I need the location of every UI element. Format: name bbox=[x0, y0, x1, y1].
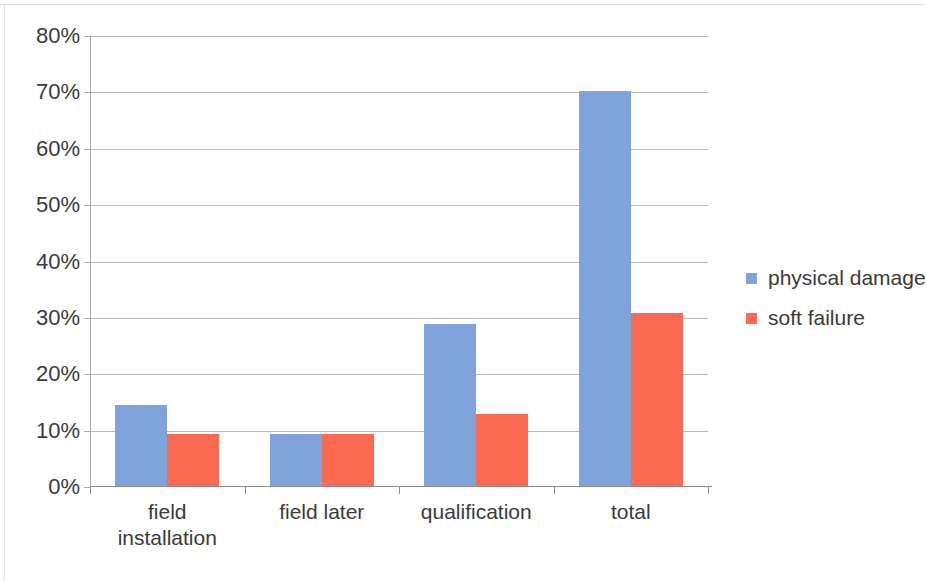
y-axis-tick bbox=[84, 205, 90, 206]
y-axis-tick bbox=[84, 149, 90, 150]
plot-area bbox=[90, 36, 712, 487]
y-axis-line bbox=[90, 36, 91, 488]
x-axis-line bbox=[90, 486, 712, 487]
legend-swatch-icon bbox=[746, 313, 757, 324]
bar-physical-damage-qualification bbox=[424, 324, 476, 486]
y-axis-tick-label: 0% bbox=[0, 476, 80, 498]
y-axis-tick-label: 20% bbox=[0, 363, 80, 385]
legend-item-physical-damage[interactable]: physical damage bbox=[746, 258, 924, 298]
y-axis-tick bbox=[84, 318, 90, 319]
bar-physical-damage-field-installation bbox=[115, 405, 167, 486]
y-axis-tick-label: 60% bbox=[0, 138, 80, 160]
category-label-field-installation: fieldinstallation bbox=[90, 499, 245, 551]
category-label-line: field later bbox=[245, 499, 400, 525]
x-axis-tick bbox=[90, 487, 91, 494]
y-axis-tick-label: 70% bbox=[0, 81, 80, 103]
category-label-line: field bbox=[90, 499, 245, 525]
chart-legend: physical damagesoft failure bbox=[746, 258, 924, 338]
legend-item-soft-failure[interactable]: soft failure bbox=[746, 298, 924, 338]
bar-soft-failure-qualification bbox=[476, 414, 528, 486]
y-axis-tick-label: 40% bbox=[0, 251, 80, 273]
legend-swatch-icon bbox=[746, 273, 757, 284]
scan-edge-top bbox=[0, 4, 924, 5]
y-axis-tick bbox=[84, 92, 90, 93]
category-label-line: qualification bbox=[399, 499, 554, 525]
y-axis-tick-label: 30% bbox=[0, 307, 80, 329]
x-axis-tick bbox=[399, 487, 400, 494]
y-axis-tick bbox=[84, 36, 90, 37]
bar-soft-failure-field-installation bbox=[167, 434, 219, 486]
category-label-field-later: field later bbox=[245, 499, 400, 525]
y-axis-tick-label: 50% bbox=[0, 194, 80, 216]
y-axis-tick-label: 10% bbox=[0, 420, 80, 442]
y-axis-tick bbox=[84, 431, 90, 432]
category-label-total: total bbox=[554, 499, 709, 525]
category-label-qualification: qualification bbox=[399, 499, 554, 525]
y-axis-tick-label: 80% bbox=[0, 25, 80, 47]
category-label-line: total bbox=[554, 499, 709, 525]
y-axis-tick bbox=[84, 262, 90, 263]
bar-physical-damage-field-later bbox=[270, 434, 322, 486]
bar-physical-damage-total bbox=[579, 91, 631, 486]
bar-soft-failure-field-later bbox=[322, 434, 374, 486]
x-axis-tick bbox=[708, 487, 709, 494]
bar-soft-failure-total bbox=[631, 313, 683, 486]
x-axis-tick bbox=[245, 487, 246, 494]
category-label-line: installation bbox=[90, 525, 245, 551]
x-axis-tick bbox=[554, 487, 555, 494]
legend-label: physical damage bbox=[768, 266, 926, 290]
gridline bbox=[90, 36, 708, 37]
legend-label: soft failure bbox=[768, 306, 865, 330]
y-axis-tick bbox=[84, 374, 90, 375]
